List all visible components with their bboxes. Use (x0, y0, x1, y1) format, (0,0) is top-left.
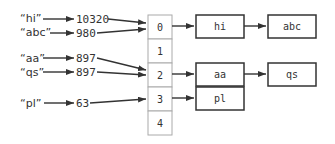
arrow-hash-bucket-qs (97, 72, 146, 75)
bucket-index-2: 2 (157, 70, 163, 81)
chain-node-pl-text: pl (214, 93, 226, 104)
arrow-hash-bucket-aa (97, 58, 146, 70)
arrow-hash-bucket-hi (108, 19, 146, 23)
hash-value-hi: 10320 (76, 13, 109, 26)
key-label-qs: “qs” (20, 66, 44, 79)
chain-node-hi-text: hi (214, 21, 226, 32)
key-label-hi: “hi” (20, 12, 41, 25)
hash-value-aa: 897 (76, 52, 96, 65)
arrow-hash-bucket-pl (90, 99, 146, 103)
hash-value-qs: 897 (76, 66, 96, 79)
bucket-table: 0 1 2 3 4 (148, 15, 172, 135)
chain-node-abc-text: abc (283, 21, 301, 32)
hash-value-abc: 980 (76, 27, 96, 40)
bucket-index-3: 3 (157, 94, 163, 105)
bucket-index-1: 1 (157, 46, 163, 57)
chain-node-qs-text: qs (286, 69, 298, 80)
bucket-index-4: 4 (157, 118, 163, 129)
key-label-pl: “pl” (20, 97, 41, 110)
key-label-abc: “abc” (20, 26, 51, 39)
arrow-hash-bucket-abc (97, 29, 146, 33)
bucket-index-0: 0 (157, 22, 163, 33)
hash-table-diagram: “hi” “abc” “aa” “qs” “pl” 10320 980 897 … (0, 0, 335, 144)
chain-node-aa-text: aa (214, 69, 226, 80)
key-label-aa: “aa” (20, 52, 45, 65)
hash-value-pl: 63 (76, 97, 89, 110)
